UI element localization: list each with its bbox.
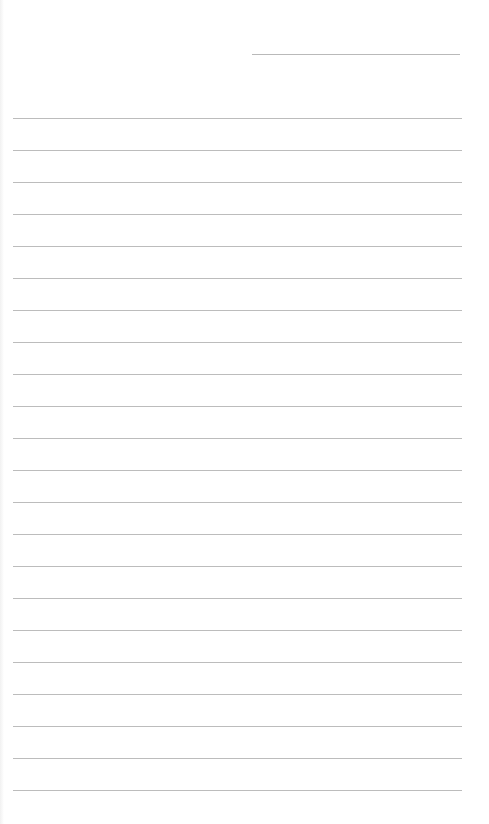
ruled-writing-line[interactable] xyxy=(13,470,462,471)
page-edge-shadow xyxy=(0,0,4,824)
ruled-writing-line[interactable] xyxy=(13,150,462,151)
ruled-writing-line[interactable] xyxy=(13,342,462,343)
ruled-writing-line[interactable] xyxy=(13,278,462,279)
ruled-writing-line[interactable] xyxy=(13,374,462,375)
ruled-lines-container xyxy=(13,0,462,824)
ruled-writing-line[interactable] xyxy=(13,118,462,119)
ruled-writing-line[interactable] xyxy=(13,438,462,439)
ruled-writing-line[interactable] xyxy=(13,406,462,407)
ruled-writing-line[interactable] xyxy=(13,182,462,183)
ruled-writing-line[interactable] xyxy=(13,726,462,727)
ruled-writing-line[interactable] xyxy=(13,310,462,311)
ruled-writing-line[interactable] xyxy=(13,534,462,535)
ruled-writing-line[interactable] xyxy=(13,630,462,631)
ruled-writing-line[interactable] xyxy=(13,598,462,599)
ruled-writing-line[interactable] xyxy=(13,214,462,215)
ruled-writing-line[interactable] xyxy=(13,566,462,567)
notebook-page xyxy=(0,0,489,824)
ruled-writing-line[interactable] xyxy=(13,790,462,791)
ruled-writing-line[interactable] xyxy=(13,694,462,695)
ruled-writing-line[interactable] xyxy=(13,758,462,759)
ruled-writing-line[interactable] xyxy=(13,662,462,663)
ruled-writing-line[interactable] xyxy=(13,502,462,503)
ruled-writing-line[interactable] xyxy=(13,246,462,247)
